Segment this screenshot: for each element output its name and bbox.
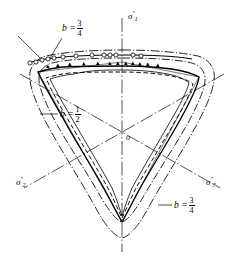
leader-b-top [50, 38, 62, 58]
annotation-b-top: b = 3 4 [62, 20, 83, 37]
annotation-b-top-text: b = [62, 24, 76, 34]
origin-label: o [126, 134, 130, 142]
axis-label-sigma1-sub: 1 [134, 15, 137, 22]
axis-label-sigma3: σ′3 [206, 176, 216, 188]
annotation-b-left-denominator: 2 [75, 116, 81, 124]
diagram-canvas [0, 0, 240, 262]
annotation-b-top-denominator: 4 [77, 30, 83, 38]
leader-line-topleft [18, 36, 44, 62]
axis-label-sigma2: σ′2 [16, 176, 26, 188]
locus-innermost-path [50, 70, 189, 216]
axis-label-sigma2-sub: 2 [22, 181, 25, 188]
annotation-b-left-text: b = [60, 110, 74, 120]
leader-topleft-path [18, 36, 44, 62]
axis-label-sigma1: σ′1 [128, 10, 138, 22]
axis-label-sigma3-sub: 3 [212, 181, 215, 188]
locus-inner-dashed [46, 72, 193, 218]
annotation-b-bottom-right: b = 3 4 [174, 197, 195, 214]
annotation-b-top-fraction: 3 4 [77, 20, 83, 37]
annotation-b-left-numerator: 1 [75, 106, 81, 114]
locus-innermost-solid [50, 70, 189, 216]
figure-deviatoric-yield-loci: σ′1 σ′2 σ′3 o b = 3 4 b = 1 2 b = 3 4 [0, 0, 240, 262]
annotation-b-left-fraction: 1 2 [75, 106, 81, 123]
annotation-b-bottom-right-text: b = [174, 201, 188, 211]
annotation-b-bottom-right-fraction: 3 4 [189, 197, 195, 214]
locus-inner-path [46, 72, 193, 218]
annotation-b-left: b = 1 2 [60, 106, 81, 123]
annotation-b-bottom-right-denominator: 4 [189, 207, 195, 215]
annotation-b-bottom-right-numerator: 3 [189, 197, 195, 205]
annotation-b-top-numerator: 3 [77, 20, 83, 28]
axis-sigma3 [20, 74, 220, 188]
